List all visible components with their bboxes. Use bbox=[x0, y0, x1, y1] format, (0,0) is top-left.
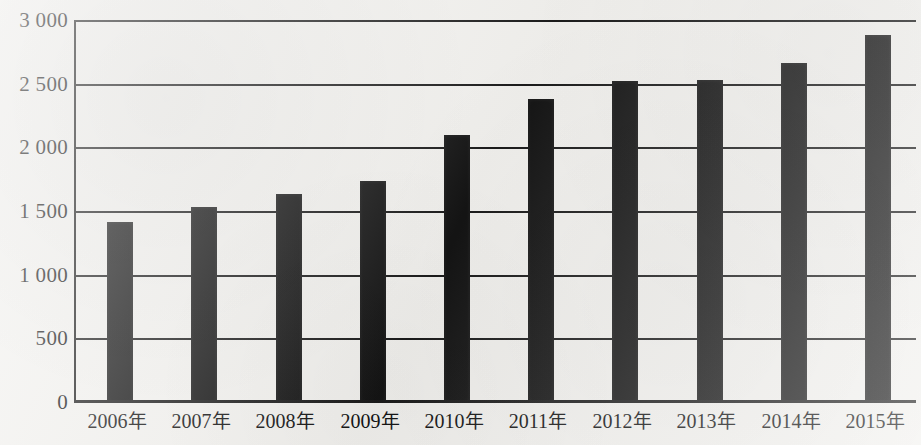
bar-2009 bbox=[360, 181, 386, 403]
y-tick-label-2000: 2 000 bbox=[2, 137, 68, 158]
bar-2006 bbox=[107, 222, 133, 403]
x-tick-year: 2007 bbox=[172, 410, 212, 432]
bar-2011 bbox=[528, 99, 554, 403]
x-tick-label-2008: 2008年 bbox=[243, 408, 327, 434]
y-tick-label-2500: 2 500 bbox=[2, 74, 68, 95]
y-axis-tick-labels: 3 0002 5002 0001 5001 0005000 bbox=[0, 0, 68, 445]
x-tick-year: 2011 bbox=[509, 410, 548, 432]
x-tick-label-2009: 2009年 bbox=[328, 408, 412, 434]
x-tick-year: 2014 bbox=[762, 410, 802, 432]
y-tick-label-0: 0 bbox=[2, 392, 68, 413]
x-tick-year-suffix: 年 bbox=[381, 410, 400, 432]
x-tick-year: 2008 bbox=[256, 410, 296, 432]
x-tick-year-suffix: 年 bbox=[465, 410, 484, 432]
plot-area bbox=[74, 21, 916, 403]
bar-chart: 3 0002 5002 0001 5001 0005000 2006年2007年… bbox=[0, 0, 921, 445]
bar-2007 bbox=[191, 207, 217, 403]
x-tick-year: 2010 bbox=[425, 410, 465, 432]
x-axis-line bbox=[74, 400, 916, 403]
x-axis-tick-labels: 2006年2007年2008年2009年2010年2011年2012年2013年… bbox=[74, 408, 921, 442]
x-tick-year-suffix: 年 bbox=[548, 410, 567, 432]
bar-2015 bbox=[865, 35, 891, 403]
x-tick-label-2014: 2014年 bbox=[749, 408, 833, 434]
x-tick-year: 2009 bbox=[341, 410, 381, 432]
x-tick-year-suffix: 年 bbox=[633, 410, 652, 432]
gridline-3000 bbox=[74, 20, 916, 22]
x-tick-year-suffix: 年 bbox=[717, 410, 736, 432]
y-axis-line bbox=[74, 21, 76, 403]
bar-2013 bbox=[697, 80, 723, 403]
x-tick-label-2015: 2015年 bbox=[833, 408, 917, 434]
x-tick-year: 2006 bbox=[88, 410, 128, 432]
bar-2014 bbox=[781, 63, 807, 403]
x-tick-year: 2015 bbox=[846, 410, 886, 432]
x-tick-year: 2012 bbox=[593, 410, 633, 432]
x-tick-label-2013: 2013年 bbox=[664, 408, 748, 434]
x-tick-label-2006: 2006年 bbox=[75, 408, 159, 434]
x-tick-year-suffix: 年 bbox=[212, 410, 231, 432]
x-tick-label-2011: 2011年 bbox=[496, 408, 580, 434]
x-tick-year-suffix: 年 bbox=[296, 410, 315, 432]
x-tick-year-suffix: 年 bbox=[886, 410, 905, 432]
bar-2010 bbox=[444, 135, 470, 403]
x-tick-label-2012: 2012年 bbox=[580, 408, 664, 434]
x-tick-label-2010: 2010年 bbox=[412, 408, 496, 434]
y-tick-label-3000: 3 000 bbox=[2, 10, 68, 31]
y-tick-label-500: 500 bbox=[2, 328, 68, 349]
y-tick-label-1500: 1 500 bbox=[2, 201, 68, 222]
y-tick-label-1000: 1 000 bbox=[2, 265, 68, 286]
x-tick-label-2007: 2007年 bbox=[159, 408, 243, 434]
x-tick-year-suffix: 年 bbox=[802, 410, 821, 432]
bar-2012 bbox=[612, 81, 638, 403]
x-tick-year: 2013 bbox=[677, 410, 717, 432]
bar-2008 bbox=[276, 194, 302, 403]
x-tick-year-suffix: 年 bbox=[128, 410, 147, 432]
